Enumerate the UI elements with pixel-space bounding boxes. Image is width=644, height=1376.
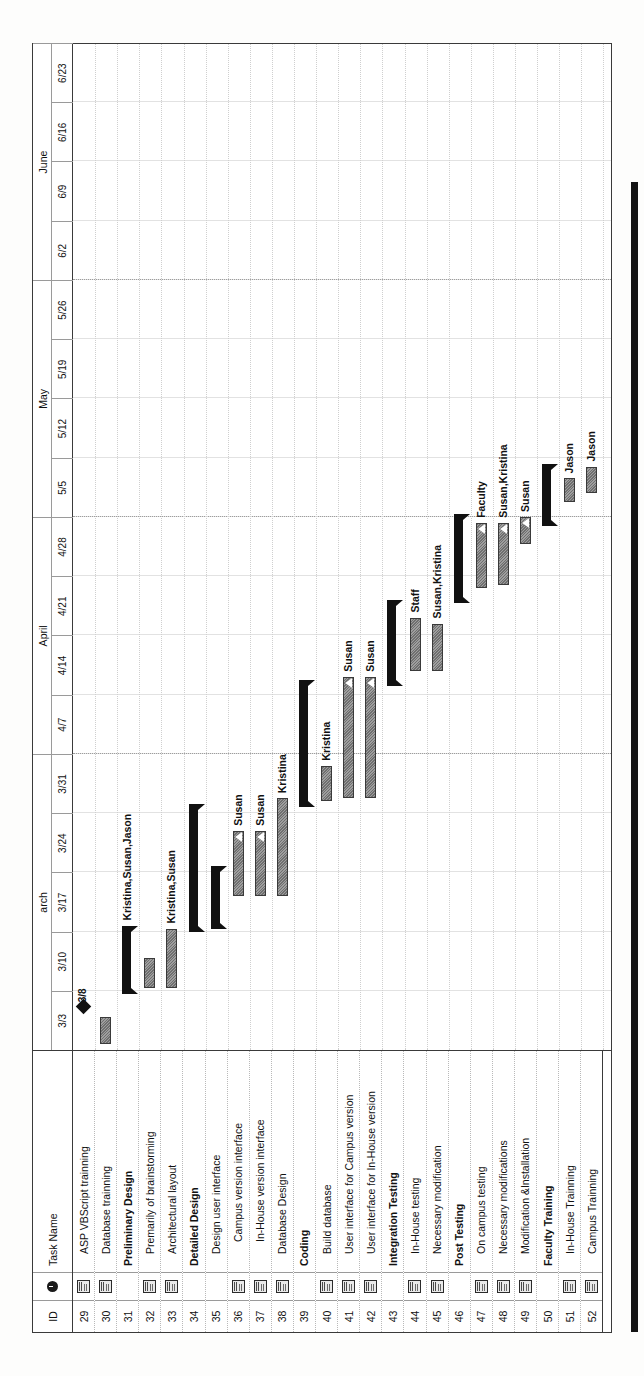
table-row[interactable]: 42User interface for In-House version: [360, 1051, 382, 1332]
task-name-cell[interactable]: Build database: [316, 1051, 337, 1272]
table-row[interactable]: 47On campus testing: [471, 1051, 493, 1332]
table-row[interactable]: 48Necessary modifications: [493, 1051, 515, 1332]
task-name-cell[interactable]: In-House testing: [404, 1051, 425, 1272]
table-row[interactable]: 44In-House testing: [404, 1051, 426, 1332]
task-name-cell[interactable]: Premarily of brainstorming: [139, 1051, 160, 1272]
note-icon: [431, 1280, 444, 1293]
task-name-cell[interactable]: User interface for In-House version: [360, 1051, 381, 1272]
task-name-cell[interactable]: Preliminary Design: [117, 1051, 138, 1272]
task-name-cell[interactable]: Faculty Training: [537, 1051, 558, 1272]
table-row[interactable]: 36Campus version interface: [228, 1051, 250, 1332]
table-row[interactable]: 38Database Design: [272, 1051, 294, 1332]
gantt-plot-area[interactable]: 3/8Kristina,Susan,JasonKristina,SusanSus…: [73, 44, 611, 1050]
table-row[interactable]: 39Coding: [294, 1051, 316, 1332]
task-bar[interactable]: [365, 677, 376, 798]
table-row[interactable]: 49Modification &Installation: [515, 1051, 537, 1332]
summary-bar[interactable]: [122, 926, 131, 994]
table-row[interactable]: 40Build database: [316, 1051, 338, 1332]
task-name-cell[interactable]: User interface for Campus version: [338, 1051, 359, 1272]
table-row[interactable]: 29ASP VBScript trainning: [73, 1051, 95, 1332]
row-indicator-cell[interactable]: [95, 1272, 116, 1300]
task-name-cell[interactable]: Coding: [294, 1051, 315, 1272]
row-indicator-cell[interactable]: [73, 1272, 94, 1300]
row-indicator-cell[interactable]: [360, 1272, 381, 1300]
row-indicator-cell[interactable]: [382, 1272, 403, 1300]
timescale-week-3-17: 3/17: [52, 872, 73, 931]
table-row[interactable]: 43Integration Testing: [382, 1051, 404, 1332]
table-row[interactable]: 46Post Testing: [449, 1051, 471, 1332]
task-name-cell[interactable]: Architectural layout: [161, 1051, 182, 1272]
summary-bar[interactable]: [189, 804, 198, 931]
row-indicator-cell[interactable]: [228, 1272, 249, 1300]
row-indicator-cell[interactable]: [537, 1272, 558, 1300]
task-bar[interactable]: [432, 624, 443, 671]
summary-bar[interactable]: [211, 866, 220, 928]
summary-bar[interactable]: [454, 514, 463, 603]
column-header-indicator[interactable]: [33, 1272, 72, 1300]
task-name-cell[interactable]: Campus Trainning: [581, 1051, 602, 1272]
table-row[interactable]: 30Database trainning: [95, 1051, 117, 1332]
task-name-cell[interactable]: Necessary modifications: [493, 1051, 514, 1272]
row-indicator-cell[interactable]: [272, 1272, 293, 1300]
task-bar[interactable]: [144, 958, 155, 988]
task-name-cell[interactable]: In-House version interface: [250, 1051, 271, 1272]
task-name-cell[interactable]: Necessary modification: [427, 1051, 448, 1272]
table-row[interactable]: 31Preliminary Design: [117, 1051, 139, 1332]
task-table[interactable]: ID Task Name 29ASP VBScript trainning30D…: [33, 1050, 611, 1332]
table-row[interactable]: 41User interface for Campus version: [338, 1051, 360, 1332]
row-indicator-cell[interactable]: [471, 1272, 492, 1300]
table-row[interactable]: 50Faculty Training: [537, 1051, 559, 1332]
row-indicator-cell[interactable]: [183, 1272, 204, 1300]
row-indicator-cell[interactable]: [117, 1272, 138, 1300]
table-row[interactable]: 51In-House Trainning: [559, 1051, 581, 1332]
task-name-cell[interactable]: Design user interface: [206, 1051, 227, 1272]
task-name-cell[interactable]: Modification &Installation: [515, 1051, 536, 1272]
column-header-id[interactable]: ID: [33, 1300, 72, 1332]
summary-bar[interactable]: [387, 600, 396, 686]
task-bar[interactable]: [321, 766, 332, 802]
summary-bar[interactable]: [299, 680, 308, 807]
table-row[interactable]: 35Design user interface: [206, 1051, 228, 1332]
row-indicator-cell[interactable]: [294, 1272, 315, 1300]
column-header-task-name[interactable]: Task Name: [33, 1051, 72, 1272]
table-row[interactable]: 52Campus Trainning: [581, 1051, 603, 1332]
row-indicator-cell[interactable]: [581, 1272, 602, 1300]
timescale-week-6-9: 6/9: [52, 161, 73, 220]
task-bar[interactable]: [410, 618, 421, 671]
row-indicator-cell[interactable]: [250, 1272, 271, 1300]
row-indicator-cell[interactable]: [449, 1272, 470, 1300]
task-name-cell[interactable]: On campus testing: [471, 1051, 492, 1272]
row-indicator-cell[interactable]: [316, 1272, 337, 1300]
timescale-week-5-19: 5/19: [52, 339, 73, 398]
task-bar[interactable]: [564, 478, 575, 502]
row-indicator-cell[interactable]: [161, 1272, 182, 1300]
task-name-cell[interactable]: In-House Trainning: [559, 1051, 580, 1272]
task-bar[interactable]: [343, 677, 354, 798]
note-icon: [232, 1280, 245, 1293]
row-indicator-cell[interactable]: [338, 1272, 359, 1300]
table-row[interactable]: 34Detailed Design: [183, 1051, 205, 1332]
task-bar[interactable]: [166, 929, 177, 988]
table-row[interactable]: 45Necessary modification: [427, 1051, 449, 1332]
row-indicator-cell[interactable]: [404, 1272, 425, 1300]
table-row[interactable]: 32Premarily of brainstorming: [139, 1051, 161, 1332]
task-bar[interactable]: [586, 467, 597, 494]
task-name-cell[interactable]: Detailed Design: [183, 1051, 204, 1272]
summary-bar[interactable]: [542, 464, 551, 526]
row-indicator-cell[interactable]: [427, 1272, 448, 1300]
table-row[interactable]: 33Architectural layout: [161, 1051, 183, 1332]
task-bar[interactable]: [100, 1017, 111, 1044]
task-bar[interactable]: [277, 798, 288, 896]
task-name-cell[interactable]: Integration Testing: [382, 1051, 403, 1272]
task-name-cell[interactable]: Database trainning: [95, 1051, 116, 1272]
task-name-cell[interactable]: Database Design: [272, 1051, 293, 1272]
table-row[interactable]: 37In-House version interface: [250, 1051, 272, 1332]
row-indicator-cell[interactable]: [559, 1272, 580, 1300]
row-indicator-cell[interactable]: [493, 1272, 514, 1300]
task-name-cell[interactable]: ASP VBScript trainning: [73, 1051, 94, 1272]
row-indicator-cell[interactable]: [139, 1272, 160, 1300]
row-indicator-cell[interactable]: [206, 1272, 227, 1300]
row-indicator-cell[interactable]: [515, 1272, 536, 1300]
task-name-cell[interactable]: Campus version interface: [228, 1051, 249, 1272]
task-name-cell[interactable]: Post Testing: [449, 1051, 470, 1272]
